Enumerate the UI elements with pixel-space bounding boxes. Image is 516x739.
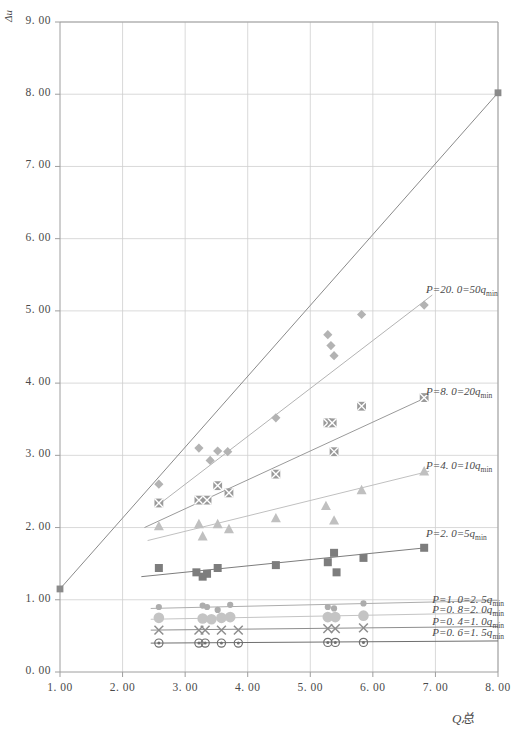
marker-small-circle [360, 600, 366, 606]
series-1-points [154, 393, 428, 507]
marker-small-circle [227, 602, 233, 608]
marker-diamond [206, 456, 215, 465]
marker-circled-dot-center [220, 642, 223, 645]
series-annotation-text: P=8. 0=20q [426, 385, 481, 397]
series-annotation-1: P=8. 0=20qmin [426, 385, 492, 400]
y-axis-tick-label: 0. 00 [7, 664, 51, 676]
series-annotation-text: P=0. 8=2. 0q [432, 603, 492, 615]
marker-triangle [357, 485, 367, 494]
x-axis-tick-label: 1. 00 [30, 681, 90, 693]
x-axis-tick-label: 6. 00 [343, 681, 403, 693]
x-axis-tick-label: 8. 00 [468, 681, 516, 693]
series-annotation-text: P=4. 0=10q [426, 459, 481, 471]
y-axis-tick-label: 8. 00 [7, 86, 51, 98]
marker-square [155, 564, 163, 572]
marker-triangle [224, 524, 234, 533]
y-axis-tick-label: 6. 00 [7, 231, 51, 243]
marker-small-circle [204, 604, 210, 610]
trend-line-2 [148, 471, 430, 540]
x-axis-tick-label: 3. 00 [155, 681, 215, 693]
marker-big-circle [358, 610, 369, 621]
series-annotation-subscript: min [486, 289, 498, 298]
series-annotation-text: P=0. 6=1. 5q [432, 626, 492, 638]
plot-frame [60, 22, 498, 672]
series-annotation-3: P=2. 0=5qmin [426, 527, 487, 542]
marker-small-circle [325, 604, 331, 610]
reference-line-segment [60, 93, 498, 589]
marker-triangle [329, 515, 339, 524]
series-annotation-subscript: min [475, 533, 487, 542]
series-annotation-text: P=0. 4=1. 0q [432, 615, 492, 627]
y-axis-tick-label: 7. 00 [7, 158, 51, 170]
y-axis-tick-label: 5. 00 [7, 303, 51, 315]
marker-circled-dot-center [362, 641, 365, 644]
marker-diamond [420, 301, 429, 310]
series-annotation-text: P=2. 0=5q [426, 527, 475, 539]
marker-triangle [213, 519, 223, 528]
marker-circled-dot-center [326, 641, 329, 644]
x-axis-tick-label: 4. 00 [218, 681, 278, 693]
x-axis-tick-label: 7. 00 [405, 681, 465, 693]
marker-small-circle [215, 607, 221, 613]
marker-triangle [194, 519, 204, 528]
marker-diamond [271, 413, 280, 422]
marker-big-circle [206, 614, 217, 625]
marker-triangle [271, 513, 281, 522]
y-axis-tick-label: 3. 00 [7, 447, 51, 459]
marker-big-circle [225, 612, 236, 623]
series-annotation-subscript: min [481, 391, 493, 400]
x-axis-tick-label: 2. 00 [93, 681, 153, 693]
grid-lines [60, 22, 498, 672]
marker-circled-dot-center [197, 642, 200, 645]
series-4-points [156, 600, 367, 613]
marker-diamond [213, 446, 222, 455]
trend-line-0 [157, 295, 432, 506]
marker-square [272, 561, 280, 569]
series-annotation-0: P=20. 0=50qmin [426, 283, 498, 298]
marker-square [214, 564, 222, 572]
marker-small-circle [331, 605, 337, 611]
marker-square [324, 558, 332, 566]
marker-diamond [194, 444, 203, 453]
series-3-points [155, 544, 428, 581]
y-axis-tick-label: 9. 00 [7, 14, 51, 26]
trend-line-3 [141, 548, 426, 577]
y-axis-tick-label: 1. 00 [7, 592, 51, 604]
axis-tick-marks [55, 22, 498, 677]
series-annotation-subscript: min [481, 465, 493, 474]
marker-triangle [198, 531, 208, 540]
y-axis-tick-label: 2. 00 [7, 520, 51, 532]
marker-square [420, 544, 428, 552]
marker-diamond [323, 330, 332, 339]
chart-canvas: Δu Q总 0. 001. 002. 003. 004. 005. 006. 0… [0, 0, 516, 739]
marker-big-circle [154, 613, 165, 624]
marker-square [333, 568, 341, 576]
marker-small-circle [156, 604, 162, 610]
series-annotation-text: P=20. 0=50q [426, 283, 486, 295]
y-axis-tick-label: 4. 00 [7, 375, 51, 387]
marker-square [203, 570, 211, 578]
marker-square [359, 554, 367, 562]
marker-circled-dot-center [157, 642, 160, 645]
series-annotation-subscript: min [492, 633, 504, 642]
marker-circled-dot-center [237, 642, 240, 645]
reference-line-start-marker [57, 586, 64, 593]
marker-triangle [321, 501, 331, 510]
marker-diamond [329, 351, 338, 360]
reference-line-end-marker [495, 89, 502, 96]
x-axis-tick-label: 5. 00 [280, 681, 340, 693]
marker-big-circle [330, 612, 341, 623]
series-annotation-7: P=0. 6=1. 5qmin [432, 626, 504, 641]
trend-line-1 [144, 398, 426, 528]
unity-reference-line [57, 89, 502, 592]
series-annotation-2: P=4. 0=10qmin [426, 459, 492, 474]
marker-circled-dot-center [204, 642, 207, 645]
marker-diamond [326, 341, 335, 350]
marker-square [330, 549, 338, 557]
marker-circled-dot-center [334, 641, 337, 644]
